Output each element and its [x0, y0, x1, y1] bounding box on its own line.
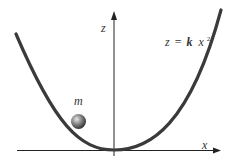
parabola-diagram: m z x z = k x 2: [0, 0, 233, 164]
mass-ball: [71, 114, 86, 129]
equation-eq: =: [175, 35, 182, 49]
z-axis-arrow-icon: [111, 11, 117, 20]
parabola-curve: [16, 10, 221, 150]
equation-x: x: [197, 35, 204, 49]
equation-k: k: [186, 35, 192, 49]
z-axis: [111, 11, 117, 156]
equation-label: z = k x 2: [164, 35, 211, 49]
z-axis-label: z: [100, 21, 106, 35]
equation-lhs: z: [164, 35, 170, 49]
equation-exponent: 2: [207, 35, 211, 43]
x-axis-arrow-icon: [213, 148, 221, 154]
x-axis-label: x: [201, 138, 208, 152]
mass-label: m: [74, 94, 83, 108]
